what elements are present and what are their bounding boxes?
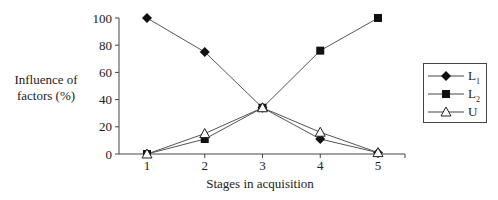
triangle-marker-icon (200, 129, 210, 138)
series-lines (142, 13, 383, 158)
y-axis-label: Influence of factors (%) (6, 72, 86, 104)
diamond-marker-icon (142, 13, 152, 23)
square-marker-icon (374, 14, 382, 22)
y-tick-label: 100 (93, 11, 113, 26)
series-line-u (147, 108, 378, 154)
y-tick-label: 20 (99, 119, 112, 134)
y-axis-label-line1: Influence of (6, 72, 86, 88)
square-marker-icon (316, 47, 324, 55)
y-axis-label-line2: factors (%) (6, 88, 86, 104)
series-line-l1 (147, 18, 378, 153)
x-tick-label: 1 (144, 158, 151, 173)
triangle-marker-icon (424, 103, 468, 121)
axes: 02040608010012345 (93, 11, 406, 174)
square-marker-icon (424, 85, 468, 103)
diamond-marker-icon (424, 67, 468, 85)
y-tick-label: 60 (99, 65, 112, 80)
legend-item-l1: L1 (424, 67, 486, 85)
legend: L1 L2 U (423, 63, 487, 123)
triangle-marker-icon (315, 127, 325, 136)
x-axis-label: Stages in acquisition (150, 176, 370, 192)
x-tick-label: 3 (259, 158, 266, 173)
x-tick-label: 5 (375, 158, 382, 173)
x-tick-label: 4 (317, 158, 324, 173)
y-tick-label: 40 (99, 92, 112, 107)
y-tick-label: 0 (106, 147, 113, 162)
legend-item-l2: L2 (424, 85, 486, 103)
legend-item-u: U (424, 103, 486, 121)
y-tick-label: 80 (99, 38, 112, 53)
x-tick-label: 2 (202, 158, 209, 173)
